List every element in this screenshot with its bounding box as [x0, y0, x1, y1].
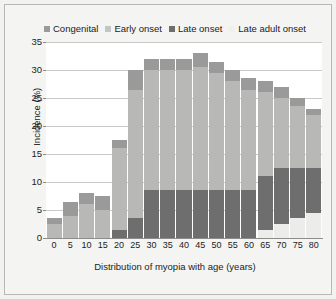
x-tick-label: 35: [160, 241, 176, 253]
bar-segment[interactable]: [128, 218, 143, 238]
x-tick-label: 40: [176, 241, 192, 253]
x-tick-label: 75: [290, 241, 306, 253]
bar-segment[interactable]: [47, 224, 62, 238]
bar-segment[interactable]: [112, 140, 127, 148]
bar-segment[interactable]: [274, 168, 289, 224]
bar-column[interactable]: [241, 42, 257, 238]
bar-column[interactable]: [192, 42, 208, 238]
bar-segment[interactable]: [306, 213, 321, 238]
bar-segment[interactable]: [144, 70, 159, 190]
x-tick-label: 5: [62, 241, 78, 253]
x-tick-label: 25: [127, 241, 143, 253]
bar-segment[interactable]: [209, 62, 224, 73]
bar-segment[interactable]: [306, 168, 321, 213]
y-tick-label: 15: [22, 149, 42, 159]
x-tick-label: 65: [257, 241, 273, 253]
bar-segment[interactable]: [225, 81, 240, 190]
chart-legend: CongenitalEarly onsetLate onsetLate adul…: [44, 22, 330, 36]
bar-column[interactable]: [273, 42, 289, 238]
bar-segment[interactable]: [160, 70, 175, 190]
bar-column[interactable]: [62, 42, 78, 238]
bar-column[interactable]: [208, 42, 224, 238]
bar-segment[interactable]: [290, 168, 305, 218]
bar-column[interactable]: [46, 42, 62, 238]
legend-item-label: Congenital: [53, 24, 98, 34]
bar-segment[interactable]: [290, 98, 305, 106]
bar-segment[interactable]: [209, 73, 224, 191]
bar-column[interactable]: [306, 42, 322, 238]
legend-item[interactable]: Late adult onset: [229, 24, 306, 34]
bar-segment[interactable]: [79, 204, 94, 238]
bar-segment[interactable]: [241, 78, 256, 89]
bar-segment[interactable]: [225, 190, 240, 238]
bar-segment[interactable]: [290, 218, 305, 238]
bar-segment[interactable]: [176, 190, 191, 238]
bar-segment[interactable]: [112, 230, 127, 238]
bar-segment[interactable]: [258, 81, 273, 92]
bar-column[interactable]: [143, 42, 159, 238]
bar-segment[interactable]: [241, 90, 256, 191]
bar-segment[interactable]: [258, 176, 273, 229]
bar-segment[interactable]: [176, 59, 191, 70]
bar-segment[interactable]: [193, 190, 208, 238]
x-tick-label: 15: [95, 241, 111, 253]
bar-segment[interactable]: [128, 70, 143, 90]
x-tick-label: 20: [111, 241, 127, 253]
bar-column[interactable]: [78, 42, 94, 238]
bar-column[interactable]: [127, 42, 143, 238]
bar-segment[interactable]: [128, 90, 143, 219]
legend-swatch-icon: [105, 26, 111, 32]
bar-column[interactable]: [257, 42, 273, 238]
bar-column[interactable]: [225, 42, 241, 238]
bar-segment[interactable]: [176, 70, 191, 190]
plot-area: [46, 42, 322, 238]
bar-column[interactable]: [111, 42, 127, 238]
bar-segment[interactable]: [95, 196, 110, 210]
bar-column[interactable]: [160, 42, 176, 238]
bar-segment[interactable]: [258, 92, 273, 176]
legend-swatch-icon: [229, 26, 235, 32]
bar-column[interactable]: [176, 42, 192, 238]
bar-segment[interactable]: [144, 190, 159, 238]
bar-segment[interactable]: [193, 53, 208, 67]
chart-figure: CongenitalEarly onsetLate onsetLate adul…: [0, 0, 336, 299]
bar-segment[interactable]: [63, 202, 78, 216]
legend-item[interactable]: Congenital: [44, 24, 98, 34]
bar-segment[interactable]: [79, 193, 94, 204]
y-tick-label: 5: [22, 205, 42, 215]
bar-segment[interactable]: [290, 106, 305, 168]
y-tick-label: 30: [22, 65, 42, 75]
bar-segment[interactable]: [160, 59, 175, 70]
bar-segment[interactable]: [193, 67, 208, 190]
bar-segment[interactable]: [306, 115, 321, 168]
bar-segment[interactable]: [95, 210, 110, 238]
y-tick-label: 20: [22, 121, 42, 131]
bar-column[interactable]: [95, 42, 111, 238]
legend-item-label: Early onset: [114, 24, 162, 34]
x-tick-label: 50: [208, 241, 224, 253]
bar-segment[interactable]: [258, 230, 273, 238]
bar-segment[interactable]: [274, 98, 289, 168]
bar-segment[interactable]: [144, 59, 159, 70]
legend-item[interactable]: Early onset: [105, 24, 162, 34]
x-tick-label: 30: [143, 241, 159, 253]
y-tick-label: 10: [22, 177, 42, 187]
bar-segment[interactable]: [209, 190, 224, 238]
x-axis-label: Distribution of myopia with age (years): [30, 262, 320, 272]
y-tick-label: 0: [22, 233, 42, 243]
legend-item[interactable]: Late onset: [169, 24, 222, 34]
x-axis-line: [46, 238, 323, 239]
bar-segment[interactable]: [274, 224, 289, 238]
bar-column[interactable]: [290, 42, 306, 238]
bar-segment[interactable]: [112, 148, 127, 229]
x-tick-label: 55: [225, 241, 241, 253]
legend-item-label: Late adult onset: [238, 24, 306, 34]
bar-segment[interactable]: [160, 190, 175, 238]
bar-segment[interactable]: [225, 70, 240, 81]
legend-swatch-icon: [44, 26, 50, 32]
bar-segment[interactable]: [241, 190, 256, 238]
legend-item-label: Late onset: [178, 24, 222, 34]
x-tick-label: 60: [241, 241, 257, 253]
bar-segment[interactable]: [63, 216, 78, 238]
bar-segment[interactable]: [274, 87, 289, 98]
